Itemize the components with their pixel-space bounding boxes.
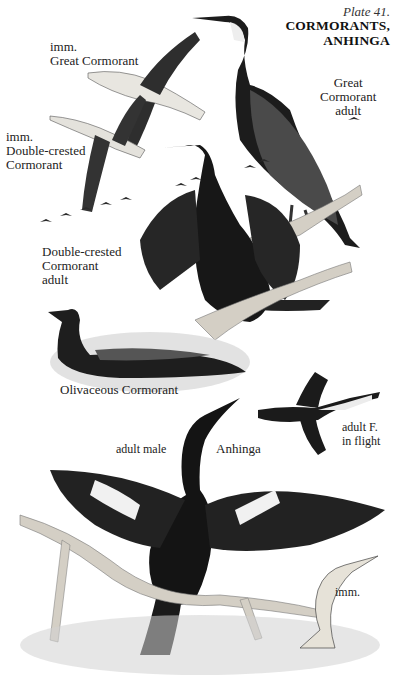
label-line: adult [42,273,121,287]
label-line: Great [320,76,376,90]
label-double-crested-adult: Double-crested Cormorant adult [42,245,121,287]
label-great-cormorant-adult: Great Cormorant adult [320,76,376,118]
label-line: Anhinga [216,442,261,456]
label-line: Cormorant [6,158,85,172]
label-line: imm. [335,585,360,599]
label-line: imm. [6,130,85,144]
label-line: in flight [342,434,380,448]
label-anhinga-adult-male: adult male [116,442,166,456]
label-imm-double-crested: imm. Double-crested Cormorant [6,130,85,172]
label-olivaceous-cormorant: Olivaceous Cormorant [60,383,178,397]
plate-title-line2: ANHINGA [285,33,390,48]
label-line: imm. [50,40,138,54]
illustration-plate: Plate 41. CORMORANTS, ANHINGA Great Corm… [0,0,398,685]
label-line: adult F. [342,420,380,434]
label-line: Great Cormorant [50,54,138,68]
label-anhinga-female-flight: adult F. in flight [342,420,380,448]
label-anhinga-species: Anhinga [216,442,261,456]
label-imm-great-cormorant: imm. Great Cormorant [50,40,138,68]
label-line: Olivaceous Cormorant [60,383,178,397]
label-line: adult [320,104,376,118]
label-anhinga-immature: imm. [335,585,360,599]
label-line: Cormorant [320,90,376,104]
label-line: Double-crested [6,144,85,158]
label-line: Cormorant [42,259,121,273]
plate-title-line1: CORMORANTS, [285,18,390,33]
plate-title: CORMORANTS, ANHINGA [285,18,390,48]
label-line: Double-crested [42,245,121,259]
label-line: adult male [116,442,166,456]
